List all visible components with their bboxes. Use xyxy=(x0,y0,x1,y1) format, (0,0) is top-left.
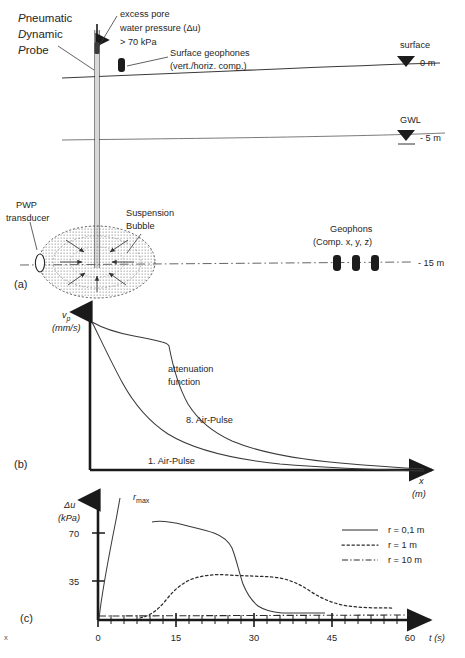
panel-c-x-axis-label: t (s) xyxy=(429,633,445,643)
panel-label-b: (b) xyxy=(14,458,27,470)
attenuation-line-1: function xyxy=(168,377,200,387)
surface-geophones-line-0: Surface geophones xyxy=(170,48,250,58)
probe-title-rest-1: ynamic xyxy=(26,28,63,40)
legend-label-2: r = 10 m xyxy=(388,555,422,565)
attenuation-line-0: attenuation xyxy=(168,364,213,374)
probe-tip-marker xyxy=(95,42,100,54)
excess-pore-line-2: > 70 kPa xyxy=(120,37,157,47)
geophone-marker-2 xyxy=(352,255,360,271)
bubble-line-0: Suspension xyxy=(126,208,174,218)
panel-b-x-symbol: x xyxy=(418,476,424,486)
panel-label-a: (a) xyxy=(14,278,27,290)
legend-label-1: r = 1 m xyxy=(388,540,417,550)
x-tick-label-60: 60 xyxy=(405,633,415,643)
probe-title-rest-2: robe xyxy=(26,44,49,56)
surface-geophone-marker xyxy=(118,58,125,72)
pwp-line-1: transducer xyxy=(6,213,49,223)
geophones-line-1: (Comp. x, y, z) xyxy=(313,237,372,247)
bubble-line-1: Bubble xyxy=(126,221,155,231)
svg-text:Probe: Probe xyxy=(18,44,49,56)
excess-pore-line-0: excess pore xyxy=(120,9,170,19)
x-tick-label-0: 0 xyxy=(95,633,100,643)
rmax-subscript: max xyxy=(136,497,150,504)
legend-label-0: r = 0,1 m xyxy=(388,525,425,535)
y-tick-label-35: 35 xyxy=(69,577,79,587)
depth-marker-surface-name: surface xyxy=(400,40,430,50)
geophone-marker-1 xyxy=(333,255,341,271)
svg-text:Dynamic: Dynamic xyxy=(18,28,63,40)
depth-15m-label: - 15 m xyxy=(418,258,444,268)
pwp-transducer-icon xyxy=(35,254,44,272)
panel-b-y-unit: (mm/s) xyxy=(52,323,81,333)
curve-label-8th-air-pulse: 8. Air-Pulse xyxy=(186,415,233,425)
panel-label-c: (c) xyxy=(20,612,33,624)
depth-marker-gwl-name: GWL xyxy=(400,115,421,125)
svg-text:Pneumatic: Pneumatic xyxy=(18,12,73,24)
panel-b-y-subscript: p xyxy=(66,315,71,323)
depth-marker-surface-value: 0 m xyxy=(420,58,436,68)
deep-geophones-group xyxy=(333,255,379,271)
probe-title-initial-1: D xyxy=(18,28,26,40)
pwp-line-0: PWP xyxy=(16,200,37,210)
y-tick-label-70: 70 xyxy=(69,529,79,539)
figure-root: Pneumatic Dynamic Probe excess pore wate… xyxy=(0,0,465,658)
suspension-bubble xyxy=(39,226,155,298)
panel-c-y-symbol: Δu xyxy=(63,500,75,510)
stray-mark-x: x xyxy=(4,633,8,642)
geophones-line-0: Geophons xyxy=(330,224,373,234)
panel-b-x-unit: (m) xyxy=(412,489,426,499)
probe-title-rest-0: neumatic xyxy=(26,12,73,24)
curve-label-1st-air-pulse: 1. Air-Pulse xyxy=(148,456,195,466)
panel-c-y-unit: (kPa) xyxy=(58,513,80,523)
depth-marker-gwl-value: - 5 m xyxy=(420,133,441,143)
geophone-marker-3 xyxy=(371,255,379,271)
x-tick-label-15: 15 xyxy=(171,633,181,643)
figure-svg: Pneumatic Dynamic Probe excess pore wate… xyxy=(0,0,465,658)
x-tick-label-45: 45 xyxy=(327,633,337,643)
excess-pore-line-1: water pressure (Δu) xyxy=(119,23,201,33)
x-tick-label-30: 30 xyxy=(249,633,259,643)
surface-geophones-line-1: (vert./horiz. comp.) xyxy=(170,61,247,71)
